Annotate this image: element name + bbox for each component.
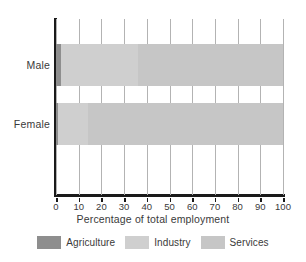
- category-label-male: Male: [2, 59, 50, 71]
- tick-label-20: 20: [96, 201, 107, 212]
- chart-legend: AgricultureIndustryServices: [0, 236, 306, 249]
- bar-segment-male-services: [138, 44, 283, 86]
- legend-item-industry[interactable]: Industry: [125, 236, 190, 249]
- bar-female: [56, 103, 283, 145]
- tick-label-0: 0: [53, 201, 58, 212]
- tick-label-60: 60: [187, 201, 198, 212]
- x-axis-ticks: 0102030405060708090100: [0, 198, 306, 212]
- legend-label-industry: Industry: [154, 237, 190, 248]
- bar-segment-female-services: [88, 103, 283, 145]
- stacked-bar-chart: Male Female 0102030405060708090100 Perce…: [0, 0, 306, 262]
- y-axis-category-labels: Male Female: [0, 19, 50, 195]
- gridline-100: [283, 19, 284, 195]
- tick-label-100: 100: [275, 201, 291, 212]
- tick-label-10: 10: [73, 201, 84, 212]
- legend-swatch-services: [201, 236, 225, 249]
- plot-area: [56, 19, 283, 195]
- tick-label-80: 80: [232, 201, 243, 212]
- bar-segment-male-industry: [61, 44, 138, 86]
- bar-male: [56, 44, 283, 86]
- legend-label-agriculture: Agriculture: [66, 237, 115, 248]
- tick-label-40: 40: [142, 201, 153, 212]
- bar-segment-female-industry: [58, 103, 88, 145]
- tick-label-50: 50: [164, 201, 175, 212]
- tick-label-30: 30: [119, 201, 130, 212]
- legend-swatch-industry: [125, 236, 149, 249]
- category-label-female: Female: [2, 118, 50, 130]
- legend-label-services: Services: [230, 237, 269, 248]
- x-axis-title: Percentage of total employment: [0, 213, 306, 225]
- legend-item-agriculture[interactable]: Agriculture: [37, 236, 115, 249]
- tick-label-70: 70: [210, 201, 221, 212]
- legend-swatch-agriculture: [37, 236, 61, 249]
- legend-item-services[interactable]: Services: [201, 236, 269, 249]
- tick-label-90: 90: [255, 201, 266, 212]
